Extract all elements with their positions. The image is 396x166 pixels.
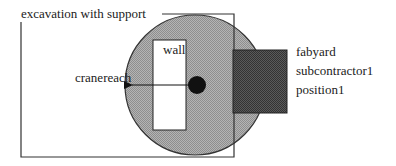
excavation-label: excavation with support bbox=[21, 6, 146, 21]
crane-reach-label: cranereach bbox=[75, 70, 132, 85]
site-layout-diagram: excavation with support cranereach wall … bbox=[0, 0, 396, 166]
crane-position-dot bbox=[188, 76, 206, 94]
fabyard-area bbox=[233, 50, 287, 113]
fabyard-subcontractor-label: subcontractor1 bbox=[296, 63, 373, 78]
fabyard-label: fabyard bbox=[296, 44, 336, 59]
wall-label: wall bbox=[163, 42, 186, 57]
fabyard-position-label: position1 bbox=[296, 82, 344, 97]
